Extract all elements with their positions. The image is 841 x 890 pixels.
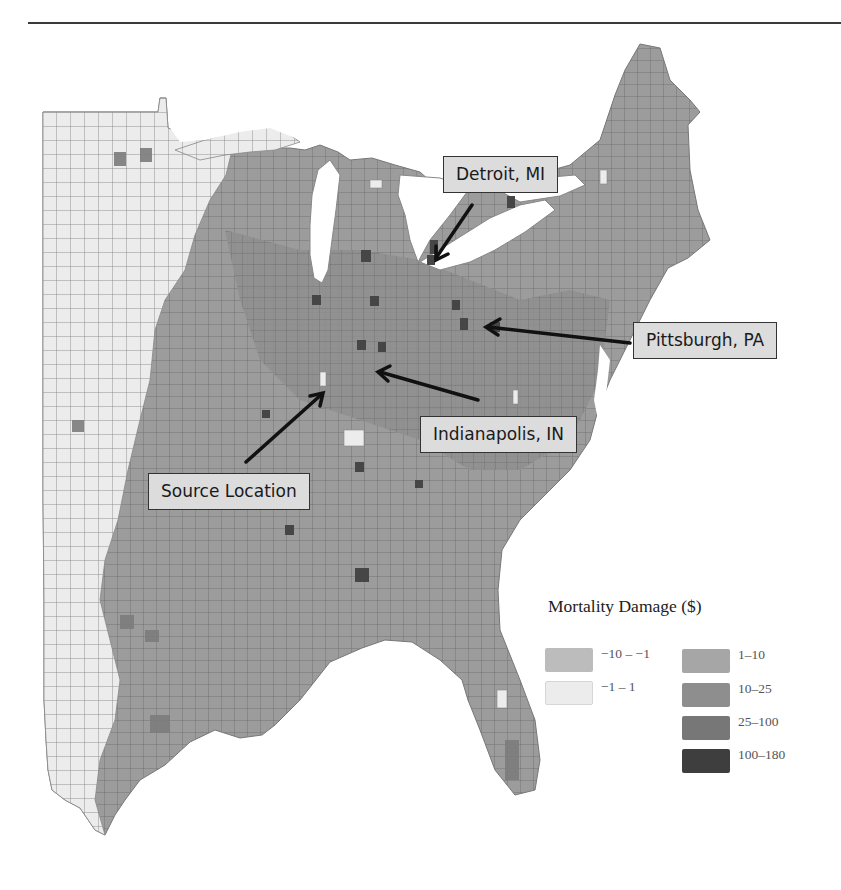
legend: Mortality Damage ($) −10 – −1 −1 – 1 1–1… xyxy=(545,588,835,788)
legend-swatch xyxy=(682,683,730,707)
legend-swatch xyxy=(682,716,730,740)
legend-swatch xyxy=(682,749,730,773)
legend-swatch xyxy=(682,649,730,673)
legend-title: Mortality Damage ($) xyxy=(548,596,702,617)
callout-source: Source Location xyxy=(148,473,310,510)
callout-indianapolis: Indianapolis, IN xyxy=(420,416,577,453)
legend-swatch xyxy=(545,681,593,705)
legend-swatch xyxy=(545,648,593,672)
callout-pittsburgh: Pittsburgh, PA xyxy=(633,322,777,359)
callout-detroit: Detroit, MI xyxy=(443,156,558,193)
